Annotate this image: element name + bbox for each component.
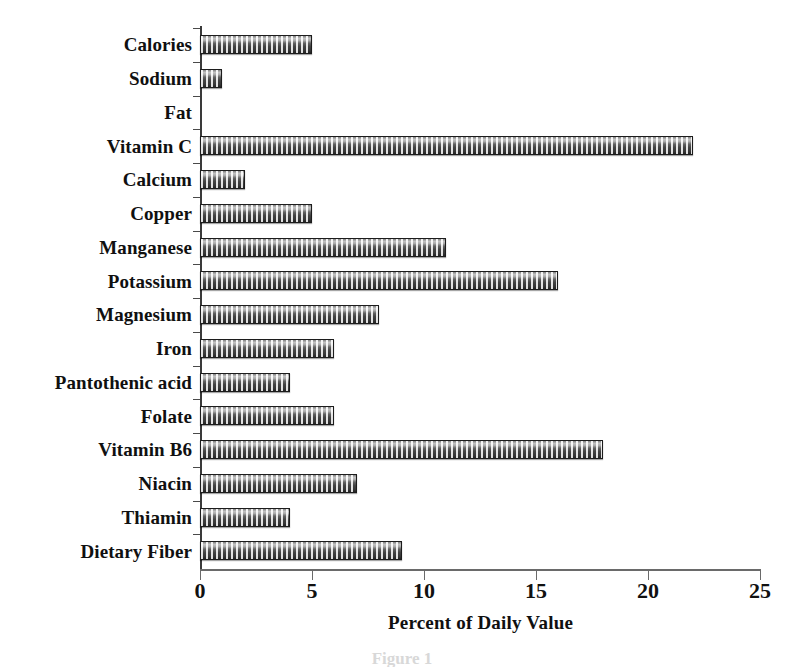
bar (200, 136, 693, 155)
bar (200, 440, 603, 459)
bar (200, 474, 357, 493)
chart-row: Magnesium (0, 298, 804, 332)
category-label: Vitamin C (0, 137, 200, 156)
category-axis-tick (193, 129, 200, 130)
chart-row: Potassium (0, 264, 804, 298)
category-axis-tick (193, 28, 200, 29)
bar-cell (200, 264, 804, 298)
category-axis-tick (193, 197, 200, 198)
category-label: Potassium (0, 272, 200, 291)
chart-row: Dietary Fiber (0, 534, 804, 568)
category-label: Thiamin (0, 508, 200, 527)
bar (200, 406, 334, 425)
category-label: Sodium (0, 69, 200, 88)
category-label: Copper (0, 204, 200, 223)
value-axis-tick-label: 10 (413, 580, 435, 602)
bar (200, 541, 402, 560)
category-label: Pantothenic acid (0, 373, 200, 392)
bar (200, 373, 290, 392)
category-label: Calcium (0, 170, 200, 189)
bar (200, 305, 379, 324)
bar (200, 271, 558, 290)
category-label: Iron (0, 339, 200, 358)
category-axis-tick (193, 332, 200, 333)
bar-cell (200, 62, 804, 96)
category-axis-tick (193, 62, 200, 63)
chart-row: Manganese (0, 231, 804, 265)
bar-cell (200, 501, 804, 535)
value-axis-tick-label: 25 (749, 580, 771, 602)
chart-row: Folate (0, 399, 804, 433)
category-axis-tick (193, 96, 200, 97)
chart-row: Vitamin C (0, 129, 804, 163)
bar-cell (200, 163, 804, 197)
bar (200, 339, 334, 358)
chart-row: Calcium (0, 163, 804, 197)
category-axis-tick (193, 433, 200, 434)
bar-cell (200, 467, 804, 501)
bar (200, 35, 312, 54)
bar (200, 508, 290, 527)
value-axis-tick-label: 15 (525, 580, 547, 602)
bar-chart: CaloriesSodiumFatVitamin CCalciumCopperM… (0, 0, 804, 667)
bar-cell (200, 298, 804, 332)
category-axis-tick (193, 264, 200, 265)
bar (200, 69, 222, 88)
value-axis-tick-label: 20 (637, 580, 659, 602)
bar-cell (200, 28, 804, 62)
chart-row: Fat (0, 96, 804, 130)
chart-row: Vitamin B6 (0, 433, 804, 467)
chart-row: Sodium (0, 62, 804, 96)
bar (200, 204, 312, 223)
bar-cell (200, 129, 804, 163)
chart-row: Calories (0, 28, 804, 62)
category-label: Dietary Fiber (0, 542, 200, 561)
bar-cell (200, 197, 804, 231)
chart-row: Pantothenic acid (0, 366, 804, 400)
bar (200, 238, 446, 257)
bar (200, 170, 245, 189)
chart-row: Thiamin (0, 501, 804, 535)
category-label: Calories (0, 35, 200, 54)
chart-row: Copper (0, 197, 804, 231)
category-axis-tick (193, 501, 200, 502)
category-label: Manganese (0, 238, 200, 257)
category-label: Niacin (0, 474, 200, 493)
category-label: Fat (0, 103, 200, 122)
bar-cell (200, 433, 804, 467)
chart-rows: CaloriesSodiumFatVitamin CCalciumCopperM… (0, 28, 804, 568)
bar-cell (200, 366, 804, 400)
category-label: Vitamin B6 (0, 440, 200, 459)
chart-row: Niacin (0, 467, 804, 501)
bar-cell (200, 399, 804, 433)
chart-row: Iron (0, 332, 804, 366)
category-label: Magnesium (0, 305, 200, 324)
value-axis-tick-labels: 0510152025 (200, 580, 761, 608)
category-axis-tick (193, 399, 200, 400)
category-axis-tick (193, 534, 200, 535)
bar-cell (200, 534, 804, 568)
category-axis-tick (193, 366, 200, 367)
category-axis-tick (193, 467, 200, 468)
category-axis-tick (193, 298, 200, 299)
category-label: Folate (0, 407, 200, 426)
value-axis-tick-label: 0 (195, 580, 206, 602)
category-axis-tick (193, 163, 200, 164)
x-axis-title: Percent of Daily Value (200, 612, 761, 634)
bar-cell (200, 96, 804, 130)
figure-caption: Figure 1 (0, 650, 804, 667)
category-axis-tick (193, 231, 200, 232)
bar-cell (200, 332, 804, 366)
bar-cell (200, 231, 804, 265)
value-axis-tick-label: 5 (307, 580, 318, 602)
